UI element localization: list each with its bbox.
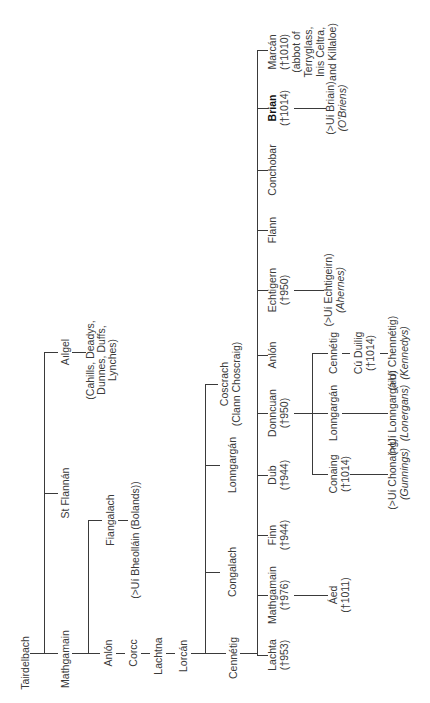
node-cu-duilig-dates: (†1014) [364, 335, 376, 371]
node-tairdelbach: Tairdelbach [19, 636, 31, 690]
tree-labels: Tairdelbach Mathgamain Anlón Corcc Lacht… [19, 23, 410, 690]
node-donncuan-dates: (†950) [278, 398, 290, 428]
node-echtigern-dates: (†950) [278, 275, 290, 305]
node-finn: Finn [266, 525, 278, 546]
node-coscrach: Coscrach [218, 362, 230, 407]
node-anlon-1: Anlón [102, 639, 114, 666]
echtigern-descendants-line-2: (Ahernes) [334, 267, 346, 313]
node-marcan: Marcán [266, 34, 278, 69]
node-cennetig-1: Cennétig [227, 637, 239, 679]
node-mathgamain-2-dates: (†976) [278, 580, 290, 610]
cu-duilig-descendants-line-2: (Kennedys) [398, 326, 410, 380]
node-lachta: Lachta [266, 639, 278, 671]
node-conaing: Conaing [327, 454, 339, 493]
node-lachta-dates: (†953) [278, 640, 290, 670]
marcan-note-line-2: Terryglass, [302, 27, 314, 78]
node-aed-dates: (†1011) [339, 577, 351, 612]
node-brian-dates: (†1014) [278, 90, 290, 126]
lonngargan-descendants-line-2: (Lonergans) [398, 385, 410, 442]
node-fiangalach: Fiangalach [104, 494, 116, 546]
node-conaing-dates: (†1014) [339, 456, 351, 492]
echtigern-descendants-line-1: (>Uí Echtigeirn) [322, 253, 334, 326]
node-lorcan: Lorcán [177, 640, 189, 672]
marcan-note-line-3: Inis Celtra, [314, 27, 326, 77]
family-tree-diagram: Tairdelbach Mathgamain Anlón Corcc Lacht… [0, 0, 430, 703]
cu-duilig-descendants-line-1: (>Uí Chennétig) [386, 316, 398, 390]
coscrach-note: (Clann Choscraig) [230, 342, 242, 427]
marcan-note-line-4: and Killaloe) [326, 23, 338, 81]
node-echtigern: Echtigern [266, 268, 278, 313]
node-mathgamain-1: Mathgamain [59, 630, 71, 688]
node-cennetig-2: Cennétig [327, 332, 339, 374]
node-corcc: Corcc [127, 639, 139, 666]
node-donncuan: Donncuan [266, 389, 278, 437]
node-lonngargan-2: Lonngargán [327, 385, 339, 441]
node-mathgamain-2: Mathgamain [266, 566, 278, 624]
node-dub-dates: (†944) [278, 460, 290, 490]
node-finn-dates: (†944) [278, 520, 290, 550]
brian-descendants-line-2: (O'Briens) [336, 85, 348, 132]
node-lonngargan-1: Lonngargán [226, 437, 238, 493]
node-flann: Flann [266, 217, 278, 243]
brian-descendants-line-1: (>Uí Briain) [324, 81, 336, 134]
node-ailgel: Aılgel [59, 339, 71, 365]
node-conchobar: Conchobar [266, 144, 278, 196]
node-marcan-dates: (†1010) [278, 34, 290, 70]
node-cu-duilig: Cú Duilig [352, 332, 364, 375]
node-lachtna: Lachtna [152, 637, 164, 675]
node-congalach: Congalach [226, 547, 238, 597]
fiangalach-descendants: (>Uí Bheolláin (Bolands)) [129, 481, 141, 599]
node-anlon-2: Anlón [266, 341, 278, 368]
conaing-descendants-line-2: (Gunnings) [398, 448, 410, 500]
marcan-note-line-1: (abbot of [290, 31, 302, 73]
node-brian: Brian [266, 95, 278, 122]
node-dub: Dub [266, 465, 278, 484]
ailgel-descendants-line-3: Lynches) [106, 339, 118, 381]
node-aed: Áed [327, 586, 339, 605]
node-st-flannan: St Flannán [59, 467, 71, 518]
